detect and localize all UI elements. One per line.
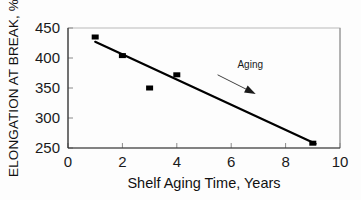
- data-point-marker: [92, 35, 99, 40]
- y-tick-label: 450: [35, 19, 60, 36]
- data-point-marker: [309, 141, 316, 146]
- x-tick-label: 8: [281, 153, 289, 170]
- x-axis-title: Shelf Aging Time, Years: [127, 175, 280, 191]
- data-point-marker: [173, 72, 180, 77]
- y-axis-title: ELONGATION AT BREAK, %: [6, 0, 21, 177]
- y-tick-label: 350: [35, 79, 60, 96]
- x-tick-label: 2: [118, 153, 126, 170]
- chart-container: 250300350400450 0246810 ELONGATION AT BR…: [0, 0, 361, 200]
- x-tick-label: 6: [227, 153, 235, 170]
- x-tick-label: 10: [332, 153, 349, 170]
- x-tick-label: 0: [64, 153, 72, 170]
- y-tick-label: 300: [35, 109, 60, 126]
- y-tick-label: 250: [35, 139, 60, 156]
- data-point-marker: [119, 53, 126, 58]
- x-tick-label: 4: [173, 153, 181, 170]
- data-point-marker: [146, 86, 153, 91]
- y-tick-label: 400: [35, 49, 60, 66]
- elongation-vs-shelf-aging-scatter-chart: 250300350400450 0246810 ELONGATION AT BR…: [0, 0, 361, 200]
- aging-annotation-label: Aging: [237, 59, 263, 70]
